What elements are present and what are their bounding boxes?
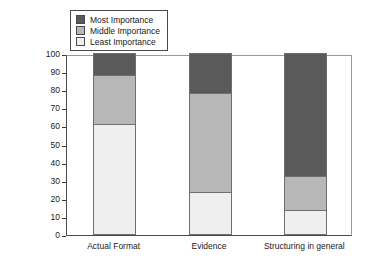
plot-area bbox=[66, 55, 352, 236]
bar-segment bbox=[284, 176, 327, 210]
bar-segment bbox=[93, 53, 136, 76]
legend-label-most-importance: Most Importance bbox=[90, 15, 153, 25]
x-axis-label: Actual Format bbox=[66, 241, 161, 251]
y-tick-mark bbox=[62, 236, 66, 237]
bar-segment bbox=[189, 93, 232, 194]
y-tick-label: 0 bbox=[55, 230, 60, 240]
y-tick-label: 100 bbox=[46, 49, 60, 59]
stacked-bar-chart: Percentage of Respondents 01020304050607… bbox=[0, 0, 370, 279]
y-tick-label: 80 bbox=[51, 85, 60, 95]
legend-swatch-most-importance bbox=[76, 15, 85, 24]
x-axis-label: Structuring in general bbox=[257, 241, 352, 251]
y-tick-label: 70 bbox=[51, 103, 60, 113]
y-tick-label: 10 bbox=[51, 212, 60, 222]
page-artifact bbox=[0, 269, 370, 279]
stacked-bar bbox=[93, 54, 136, 235]
y-tick-label: 50 bbox=[51, 140, 60, 150]
bar-segment bbox=[189, 192, 232, 235]
legend-item-middle: Middle Importance bbox=[76, 25, 160, 36]
y-tick-label: 90 bbox=[51, 67, 60, 77]
legend-swatch-least-importance bbox=[76, 37, 85, 46]
bar-segment bbox=[93, 124, 136, 235]
legend-swatch-middle-importance bbox=[76, 26, 85, 35]
stacked-bar bbox=[284, 54, 327, 235]
bar-segment bbox=[189, 53, 232, 94]
bar-segment bbox=[284, 53, 327, 177]
legend-item-most: Most Importance bbox=[76, 14, 160, 25]
legend-label-middle-importance: Middle Importance bbox=[90, 26, 160, 36]
bar-segment bbox=[284, 210, 327, 235]
legend-item-least: Least Importance bbox=[76, 36, 160, 47]
bar-segment bbox=[93, 75, 136, 125]
y-tick-label: 60 bbox=[51, 121, 60, 131]
y-tick-label: 30 bbox=[51, 176, 60, 186]
x-axis-label: Evidence bbox=[161, 241, 256, 251]
stacked-bar bbox=[189, 54, 232, 235]
y-tick-label: 40 bbox=[51, 158, 60, 168]
legend-label-least-importance: Least Importance bbox=[90, 37, 156, 47]
y-tick-label: 20 bbox=[51, 194, 60, 204]
chart-legend: Most Importance Middle Importance Least … bbox=[70, 10, 168, 51]
